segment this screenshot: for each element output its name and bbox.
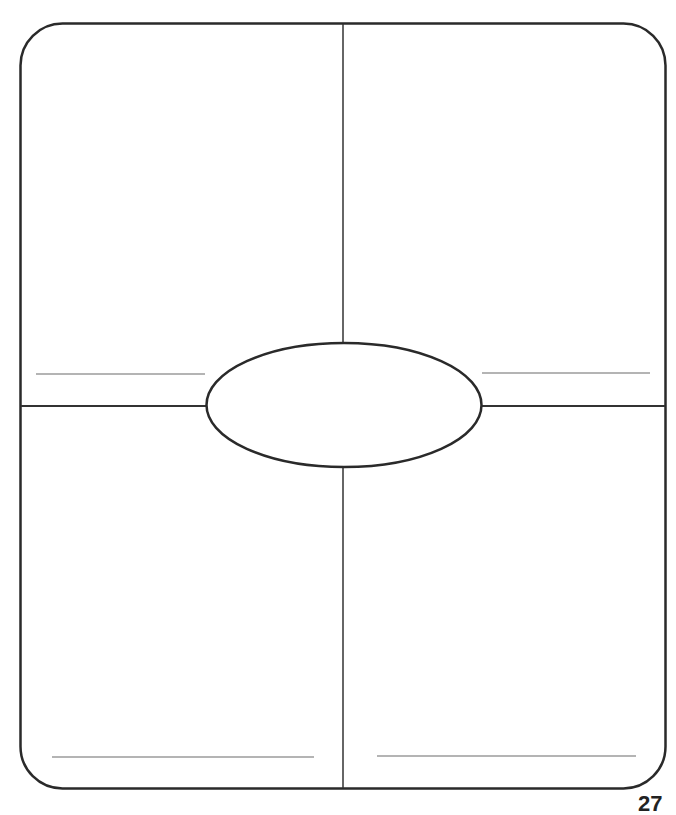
center-oval[interactable] [207,343,482,467]
page-number: 27 [638,793,662,815]
